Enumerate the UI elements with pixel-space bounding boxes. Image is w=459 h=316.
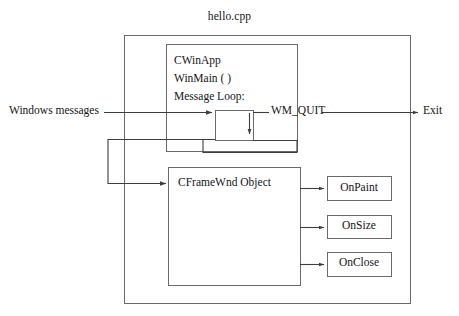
onsize-label: OnSize — [327, 220, 391, 232]
exit-label: Exit — [423, 105, 442, 117]
diagram-title: hello.cpp — [0, 11, 459, 23]
onclose-label: OnClose — [327, 257, 391, 269]
diagram-vector-layer — [0, 0, 459, 316]
wm-quit-label: WM_QUIT — [271, 105, 325, 117]
diagram-canvas: hello.cpp CWinApp WinMain ( ) Message Lo… — [0, 0, 459, 316]
onpaint-label: OnPaint — [327, 182, 391, 194]
windows-messages-label: Windows messages — [9, 105, 99, 117]
message-loop-box — [216, 111, 254, 141]
cwinapp-label: CWinApp — [174, 55, 221, 67]
cframewnd-label: CFrameWnd Object — [178, 177, 271, 189]
message-loop-label: Message Loop: — [174, 91, 245, 103]
winmain-label: WinMain ( ) — [174, 73, 231, 85]
